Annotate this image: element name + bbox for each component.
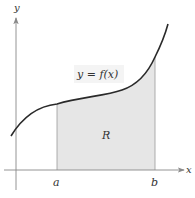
x-axis-label: x bbox=[186, 164, 192, 175]
area-under-curve-diagram: y = f(x) y x a b R bbox=[0, 0, 195, 198]
bound-b-label: b bbox=[151, 176, 158, 189]
svg-text:y = f(x): y = f(x) bbox=[76, 68, 118, 81]
bound-a-label: a bbox=[53, 176, 60, 189]
equation-equals: = bbox=[83, 68, 99, 81]
equation-rhs: f(x) bbox=[98, 68, 118, 81]
y-axis-label: y bbox=[13, 2, 20, 13]
region-r-label: R bbox=[101, 129, 110, 142]
